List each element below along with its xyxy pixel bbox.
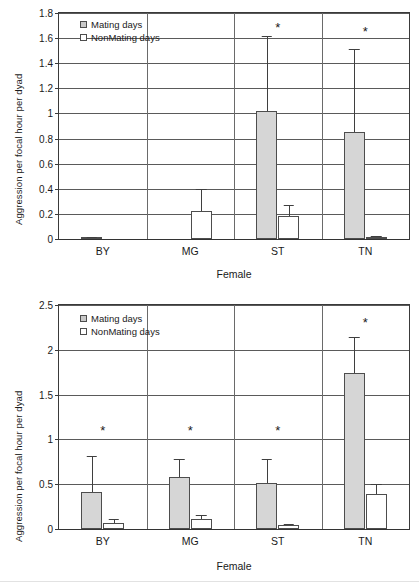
bar-mg-nonmating (191, 519, 212, 529)
legend-label-mating: Mating days (91, 312, 142, 325)
error-bar-cap (349, 49, 360, 50)
y-tick-label: 0.4 (7, 183, 59, 194)
category-separator (147, 13, 148, 239)
x-tick-label-tn: TN (358, 535, 372, 547)
legend-item-mating: Mating days (80, 312, 160, 325)
legend-label-nonmating: NonMating days (91, 31, 160, 44)
figure-aggression-panels: Aggression per focal hour per dyad 00.20… (0, 0, 419, 582)
significance-asterisk-st: * (275, 424, 280, 437)
y-tick-label: 1.5 (7, 389, 59, 400)
error-bar-by-mating (92, 456, 93, 492)
y-tick-label: 1.4 (7, 58, 59, 69)
mating-swatch-icon (80, 21, 87, 28)
bar-tn-mating (344, 132, 365, 239)
legend-item-nonmating: NonMating days (80, 31, 160, 44)
legend-item-nonmating: NonMating days (80, 325, 160, 338)
category-separator (234, 305, 235, 529)
error-bar-tn-nonmating (376, 484, 377, 494)
chart-panel-top: Aggression per focal hour per dyad 00.20… (0, 0, 419, 290)
bar-mg-nonmating (191, 211, 212, 239)
x-tick-label-mg: MG (182, 535, 199, 547)
error-bar-cap (174, 459, 185, 460)
y-tick-label: 2 (7, 344, 59, 355)
gridline (59, 529, 409, 530)
error-bar-cap (371, 484, 382, 485)
legend-bottom: Mating days NonMating days (80, 312, 160, 338)
bar-tn-mating (344, 373, 365, 529)
bar-st-mating (256, 111, 277, 239)
category-separator (322, 13, 323, 239)
bar-st-mating (256, 483, 277, 529)
bar-tn-nonmating (366, 494, 387, 529)
nonmating-swatch-icon (80, 34, 87, 41)
error-bar-mg-nonmating (201, 189, 202, 212)
bar-tn-nonmating (366, 237, 387, 239)
error-bar-cap (284, 524, 295, 525)
legend-item-mating: Mating days (80, 18, 160, 31)
y-tick-label: 1 (7, 108, 59, 119)
gridline (59, 239, 409, 240)
error-bar-tn-mating (354, 337, 355, 373)
error-bar-cap (262, 36, 273, 37)
plot-area-top: 00.20.40.60.811.21.41.61.8BYMGSTTN** (58, 12, 410, 240)
bar-mg-mating (169, 477, 190, 529)
error-bar-cap (109, 519, 120, 520)
error-bar-cap (196, 515, 207, 516)
legend-label-mating: Mating days (91, 18, 142, 31)
error-bar-st-nonmating (289, 205, 290, 216)
category-separator (147, 305, 148, 529)
nonmating-swatch-icon (80, 328, 87, 335)
bar-by-nonmating (103, 523, 124, 529)
y-tick-label: 0.2 (7, 208, 59, 219)
error-bar-tn-mating (354, 49, 355, 131)
legend-label-nonmating: NonMating days (91, 325, 160, 338)
y-tick-label: 1 (7, 434, 59, 445)
y-tick-label: 1.8 (7, 8, 59, 19)
x-axis-title-bottom: Female (58, 560, 410, 572)
significance-asterisk-mg: * (188, 424, 193, 437)
category-separator (234, 13, 235, 239)
error-bar-mg-mating (179, 459, 180, 477)
error-bar-cap (284, 205, 295, 206)
x-tick-label-by: BY (96, 245, 110, 257)
chart-panel-bottom: Aggression per focal hour per dyad 00.51… (0, 290, 419, 582)
y-tick-label: 1.6 (7, 33, 59, 44)
significance-asterisk-by: * (100, 424, 105, 437)
error-bar-st-mating (267, 36, 268, 111)
x-tick-label-by: BY (96, 535, 110, 547)
bar-by-mating (81, 492, 102, 529)
error-bar-cap (87, 456, 98, 457)
y-tick-label: 0 (7, 234, 59, 245)
error-bar-cap (262, 459, 273, 460)
significance-asterisk-tn: * (363, 316, 368, 329)
significance-asterisk-st: * (275, 20, 280, 33)
error-bar-cap (371, 236, 382, 237)
legend-top: Mating days NonMating days (80, 18, 160, 44)
significance-asterisk-tn: * (363, 24, 368, 37)
y-tick-label: 0.5 (7, 479, 59, 490)
mating-swatch-icon (80, 315, 87, 322)
error-bar-cap (87, 237, 98, 238)
y-tick-label: 0.6 (7, 158, 59, 169)
x-tick-label-mg: MG (182, 245, 199, 257)
y-tick-label: 1.2 (7, 83, 59, 94)
category-separator (322, 305, 323, 529)
x-axis-title-top: Female (58, 268, 410, 280)
error-bar-cap (349, 337, 360, 338)
error-bar-cap (196, 189, 207, 190)
bar-st-nonmating (278, 525, 299, 529)
x-tick-label-st: ST (271, 535, 284, 547)
y-tick-label: 0.8 (7, 133, 59, 144)
y-tick-label: 2.5 (7, 300, 59, 311)
x-tick-label-st: ST (271, 245, 284, 257)
y-tick-label: 0 (7, 524, 59, 535)
bar-st-nonmating (278, 216, 299, 239)
x-tick-label-tn: TN (358, 245, 372, 257)
error-bar-st-mating (267, 459, 268, 483)
